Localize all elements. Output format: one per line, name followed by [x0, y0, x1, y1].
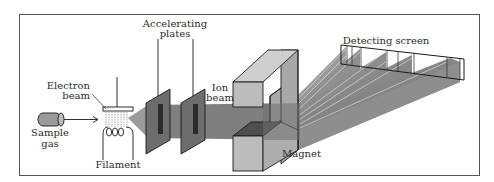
label-accelerating-plates-2: plates	[160, 28, 191, 39]
label-ion-beam-2: beam	[206, 92, 234, 103]
ion-beam-in-magnet	[263, 103, 300, 140]
mass-spectrometer-diagram: Sample gas Electron beam Filament Accele…	[0, 0, 494, 182]
sample-gas-cylinder	[38, 113, 64, 126]
label-sample-gas: Sample	[31, 127, 69, 138]
label-detecting-screen: Detecting screen	[343, 35, 430, 46]
label-electron-beam-2: beam	[62, 90, 90, 101]
label-filament: Filament	[95, 159, 140, 170]
label-magnet: Magnet	[282, 148, 321, 159]
label-sample-gas-2: gas	[41, 138, 59, 149]
